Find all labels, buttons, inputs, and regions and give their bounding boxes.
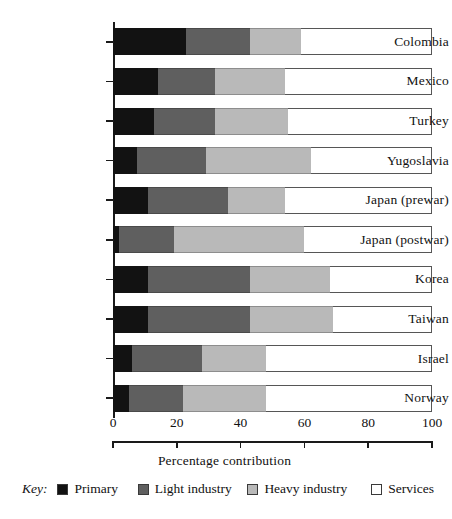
bar-segment [202,345,266,372]
bar-segment [174,226,305,253]
y-axis-tick [106,81,114,83]
bar-segment [186,28,250,55]
x-axis-tick-label: 20 [157,415,197,430]
x-axis-tick [367,441,369,448]
bar-segment [113,345,132,372]
y-axis-tick [106,120,114,122]
y-axis-label: Mexico [345,74,449,88]
bar-segment [206,147,311,174]
x-axis-tick [112,441,114,448]
x-axis-tick-label: 60 [284,415,324,430]
chart-legend: Key: Primary Light industry Heavy indust… [22,479,434,499]
y-axis-label: Japan (prewar) [345,193,449,207]
x-axis-tick [431,441,433,448]
bar-segment [129,385,183,412]
y-axis-label: Turkey [345,114,449,128]
x-axis-title: Percentage contribution [0,453,449,469]
bar-segment [158,68,215,95]
legend-item-services: Services [371,481,434,497]
legend-item-heavy-industry: Heavy industry [247,481,347,497]
bar-segment [148,266,250,293]
bar-segment [228,187,285,214]
bar-segment [113,385,129,412]
y-axis-label: Israel [345,352,449,366]
bar-segment [148,306,250,333]
bar-segment [113,266,148,293]
legend-label-primary: Primary [74,481,118,497]
y-axis-label: Taiwan [345,312,449,326]
bar-segment [215,108,288,135]
y-axis-tick [106,397,114,399]
bar-segment [137,147,206,174]
x-axis-line [113,441,433,443]
legend-label-services: Services [388,481,434,497]
x-axis-tick [304,441,306,448]
legend-swatch-heavy-industry [247,484,258,495]
legend-swatch-light-industry [138,484,149,495]
bar-segment [113,187,148,214]
legend-swatch-services [371,484,382,495]
y-axis-label: Yugoslavia [345,154,449,168]
legend-swatch-primary [57,484,68,495]
y-axis-tick [106,239,114,241]
y-axis-label: Colombia [345,35,449,49]
y-axis-tick [106,160,114,162]
legend-label-heavy-industry: Heavy industry [264,481,347,497]
bar-segment [113,28,186,55]
bar-segment [113,68,158,95]
y-axis-label: Norway [345,391,449,405]
bar-segment [132,345,202,372]
y-axis-tick [106,199,114,201]
bar-segment [250,28,301,55]
y-axis-tick [106,358,114,360]
x-axis-tick [176,441,178,448]
y-axis-label: Japan (postwar) [345,233,449,247]
bar-segment [250,306,333,333]
bar-segment [183,385,266,412]
y-axis-tick [106,279,114,281]
legend-label-light-industry: Light industry [155,481,232,497]
y-axis-label: Korea [345,272,449,286]
bar-segment [119,226,173,253]
bar-segment [154,108,215,135]
legend-key-label: Key: [22,481,47,497]
bar-segment [113,108,154,135]
bar-segment [113,306,148,333]
y-axis-tick [106,41,114,43]
x-axis-tick-label: 40 [221,415,261,430]
legend-item-primary: Primary [57,481,118,497]
bar-segment [215,68,285,95]
x-axis-tick-label: 80 [348,415,388,430]
bar-segment [113,147,137,174]
x-axis-tick [240,441,242,448]
y-axis-tick [106,318,114,320]
x-axis-tick-label: 0 [93,415,133,430]
x-axis-tick-label: 100 [412,415,452,430]
bar-segment [250,266,330,293]
legend-item-light-industry: Light industry [138,481,232,497]
bar-segment [148,187,228,214]
